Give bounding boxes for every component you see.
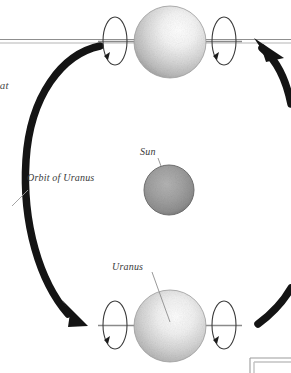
orbit-arrowhead-top	[254, 38, 284, 62]
sun-group	[144, 158, 194, 215]
clipped-text-top-left: hat	[0, 80, 16, 91]
diagram-canvas	[0, 0, 291, 373]
clipped-text-bottom-left: y	[0, 266, 9, 280]
sun-label: Sun	[140, 147, 156, 157]
uranus-label: Uranus	[112, 262, 143, 272]
planet-bottom	[98, 272, 242, 362]
corner-frame	[250, 358, 291, 373]
orbit-arc-left	[25, 46, 100, 327]
uranus-orbit-diagram: Orbit of Uranus Sun Uranus hat y	[0, 0, 291, 373]
planet-top	[98, 6, 242, 78]
orbit-label: Orbit of Uranus	[27, 173, 94, 183]
orbit-arc-right	[254, 38, 291, 324]
